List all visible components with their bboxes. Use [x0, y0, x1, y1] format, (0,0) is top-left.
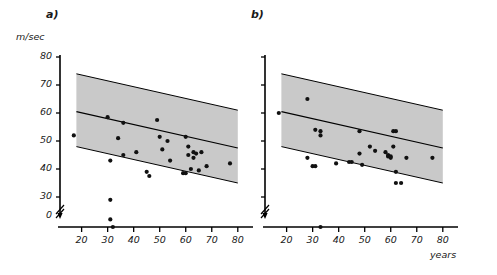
- x-tick-label: 50: [149, 234, 171, 245]
- data-point: [108, 217, 112, 221]
- data-point: [145, 170, 149, 174]
- data-point: [189, 167, 193, 171]
- data-point: [357, 152, 361, 156]
- data-point: [108, 159, 112, 163]
- x-tick-label: 50: [354, 234, 376, 245]
- data-point: [199, 150, 203, 154]
- data-point: [205, 164, 209, 168]
- data-point: [108, 198, 112, 202]
- data-point: [121, 153, 125, 157]
- data-point: [373, 149, 377, 153]
- data-point: [155, 118, 159, 122]
- data-point: [334, 161, 338, 165]
- data-point: [313, 128, 317, 132]
- data-point: [194, 152, 198, 156]
- data-point: [72, 133, 76, 137]
- data-point: [160, 147, 164, 151]
- data-point: [111, 225, 115, 229]
- x-tick-label: 30: [302, 234, 324, 245]
- y-tick-label: 40: [26, 162, 52, 173]
- confidence-band-fill: [76, 74, 237, 183]
- data-point: [186, 153, 190, 157]
- data-point: [305, 156, 309, 160]
- y-tick-label: 60: [26, 106, 52, 117]
- data-point: [116, 136, 120, 140]
- data-point: [197, 168, 201, 172]
- y-tick-label: 70: [26, 78, 52, 89]
- data-point: [106, 115, 110, 119]
- x-tick-label: 80: [227, 234, 249, 245]
- x-tick-label: 70: [201, 234, 223, 245]
- data-point: [184, 135, 188, 139]
- data-point: [394, 170, 398, 174]
- panel-a: [56, 55, 253, 232]
- panel-b: [261, 55, 458, 232]
- x-tick-label: 60: [380, 234, 402, 245]
- data-point: [430, 156, 434, 160]
- x-tick-label: 20: [71, 234, 93, 245]
- data-point: [228, 161, 232, 165]
- x-tick-label: 80: [432, 234, 454, 245]
- data-point: [357, 129, 361, 133]
- data-point: [399, 181, 403, 185]
- data-point: [391, 145, 395, 149]
- figure-container: a) b) m/sec years 3040506070800203040506…: [0, 0, 497, 275]
- data-point: [158, 135, 162, 139]
- x-tick-label: 60: [175, 234, 197, 245]
- x-tick-label: 40: [328, 234, 350, 245]
- x-tick-label: 70: [406, 234, 428, 245]
- x-tick-label: 30: [97, 234, 119, 245]
- data-point: [350, 160, 354, 164]
- y-tick-label-zero: 0: [26, 209, 52, 220]
- data-point: [305, 97, 309, 101]
- y-tick-label: 50: [26, 134, 52, 145]
- x-tick-label: 20: [276, 234, 298, 245]
- data-point: [134, 150, 138, 154]
- y-tick-label: 30: [26, 190, 52, 201]
- data-point: [318, 133, 322, 137]
- data-point: [313, 164, 317, 168]
- data-point: [191, 156, 195, 160]
- data-point: [184, 171, 188, 175]
- data-point: [389, 156, 393, 160]
- data-point: [404, 156, 408, 160]
- data-point: [165, 139, 169, 143]
- data-point: [121, 121, 125, 125]
- data-point: [147, 174, 151, 178]
- data-point: [394, 181, 398, 185]
- data-point: [186, 145, 190, 149]
- data-point: [360, 163, 364, 167]
- data-point: [318, 129, 322, 133]
- x-tick-label: 40: [123, 234, 145, 245]
- data-point: [368, 145, 372, 149]
- data-point: [277, 111, 281, 115]
- y-tick-label: 80: [26, 50, 52, 61]
- data-point: [394, 129, 398, 133]
- data-point: [318, 225, 322, 229]
- data-point: [168, 159, 172, 163]
